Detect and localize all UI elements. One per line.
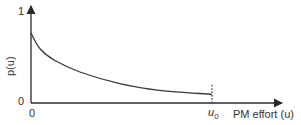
y-axis-title: p(u) <box>5 56 16 76</box>
y-tick-0: 0 <box>18 96 24 107</box>
x-tick-u0: u0 <box>208 107 219 121</box>
chart-canvas <box>0 0 301 125</box>
u0-subscript: 0 <box>214 112 218 121</box>
x-tick-0: 0 <box>29 108 35 119</box>
x-axis-title: PM effort (u) <box>233 109 294 120</box>
y-tick-1: 1 <box>18 6 24 17</box>
p-of-u-curve <box>31 33 212 94</box>
